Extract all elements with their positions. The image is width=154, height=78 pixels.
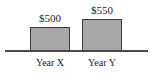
bar-value-label: $500 [23, 12, 77, 24]
x-axis-tick-label: Year Y [72, 57, 132, 69]
plot-area: $500 $550 Year X Year Y [0, 0, 154, 78]
bar-chart: $500 $550 Year X Year Y [0, 0, 154, 78]
x-axis-tick-label: Year X [20, 57, 80, 69]
bar-year-y [82, 19, 122, 50]
bar-value-label: $550 [75, 4, 129, 16]
bar-year-x [30, 27, 70, 50]
x-axis-baseline [5, 50, 148, 52]
